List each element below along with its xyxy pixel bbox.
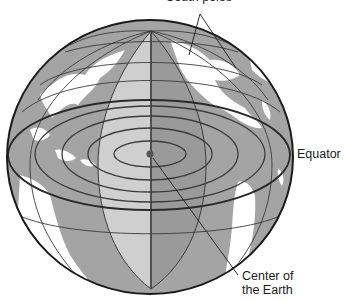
- globe-diagram: [0, 0, 344, 301]
- equator-label: Equator: [297, 147, 341, 161]
- earth-center-dot: [147, 151, 154, 158]
- center-label-line2: the Earth: [242, 283, 293, 297]
- top-pointer-label: South poles: [166, 0, 232, 4]
- center-of-earth-label: Center of the Earth: [242, 269, 293, 297]
- center-label-line1: Center of: [242, 269, 293, 283]
